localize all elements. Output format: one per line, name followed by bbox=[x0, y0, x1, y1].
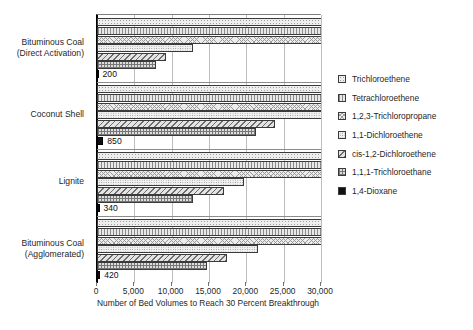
category-label-line: Bituminous Coal bbox=[0, 238, 84, 249]
bar-chart: Bituminous Coal(Direct Activation)Coconu… bbox=[0, 0, 473, 330]
legend-label: 1,4-Dioxane bbox=[352, 186, 397, 196]
bar bbox=[97, 70, 99, 78]
bar bbox=[97, 271, 100, 279]
bar bbox=[97, 27, 321, 35]
legend-label: 1,2,3-Trichloropropane bbox=[352, 111, 436, 121]
legend-item[interactable]: 1,1-Dichloroethene bbox=[338, 126, 473, 145]
legend-item[interactable]: Tetrachloroethene bbox=[338, 89, 473, 108]
legend-swatch-icon bbox=[338, 150, 346, 158]
bar-data-label: 340 bbox=[104, 204, 118, 213]
category-label: Bituminous Coal(Direct Activation) bbox=[0, 37, 84, 58]
bar bbox=[97, 137, 103, 145]
x-tick-label: 25,000 bbox=[270, 286, 296, 296]
bar bbox=[97, 161, 321, 169]
bar bbox=[97, 152, 321, 160]
category-axis: Bituminous Coal(Direct Activation)Coconu… bbox=[0, 14, 88, 282]
legend-swatch-icon bbox=[338, 94, 346, 102]
bar bbox=[97, 219, 321, 227]
x-axis-title: Number of Bed Volumes to Reach 30 Percen… bbox=[96, 298, 320, 308]
x-tick-label: 10,000 bbox=[158, 286, 184, 296]
legend-label: Trichloroethene bbox=[352, 74, 410, 84]
bar bbox=[97, 103, 321, 111]
bar bbox=[97, 120, 275, 128]
legend-item[interactable]: cis-1,2-Dichloroethene bbox=[338, 144, 473, 163]
bar bbox=[97, 178, 244, 186]
legend-swatch-icon bbox=[338, 112, 346, 120]
bar-data-label: 200 bbox=[103, 70, 117, 79]
legend-swatch-icon bbox=[338, 75, 346, 83]
bar bbox=[97, 36, 321, 44]
bar bbox=[97, 204, 100, 212]
legend-item[interactable]: 1,4-Dioxane bbox=[338, 182, 473, 201]
legend-label: 1,1-Dichloroethene bbox=[352, 130, 423, 140]
legend-swatch-icon bbox=[338, 168, 346, 176]
bar-data-label: 850 bbox=[107, 137, 121, 146]
category-separator bbox=[97, 216, 321, 217]
bar bbox=[97, 187, 224, 195]
bar bbox=[97, 128, 256, 136]
x-tick-label: 0 bbox=[94, 286, 99, 296]
legend-label: Tetrachloroethene bbox=[352, 93, 419, 103]
category-separator bbox=[97, 82, 321, 83]
category-label: Bituminous Coal(Agglomerated) bbox=[0, 238, 84, 259]
legend-item[interactable]: Trichloroethene bbox=[338, 70, 473, 89]
chart-legend: TrichloroetheneTetrachloroethene1,2,3-Tr… bbox=[338, 70, 473, 200]
bar bbox=[97, 262, 207, 270]
bar bbox=[97, 94, 321, 102]
category-label-line: Bituminous Coal bbox=[0, 37, 84, 48]
bar bbox=[97, 61, 156, 69]
legend-item[interactable]: 1,1,1-Trichloroethane bbox=[338, 163, 473, 182]
legend-label: 1,1,1-Trichloroethane bbox=[352, 167, 431, 177]
bar-data-label: 420 bbox=[104, 271, 118, 280]
bar bbox=[97, 254, 227, 262]
category-label-line: (Agglomerated) bbox=[0, 249, 84, 260]
x-axis-ticks: 05,00010,00015,00020,00025,00030,000 bbox=[96, 282, 320, 294]
bar bbox=[97, 237, 321, 245]
bar bbox=[97, 18, 321, 26]
bar bbox=[97, 170, 321, 178]
bar bbox=[97, 195, 193, 203]
x-tick-label: 5,000 bbox=[123, 286, 144, 296]
x-tick-label: 15,000 bbox=[195, 286, 221, 296]
category-label-line: Lignite bbox=[0, 176, 84, 187]
bar bbox=[97, 245, 258, 253]
gridline bbox=[321, 15, 322, 283]
legend-swatch-icon bbox=[338, 187, 346, 195]
bar bbox=[97, 111, 321, 119]
bar bbox=[97, 228, 321, 236]
legend-swatch-icon bbox=[338, 131, 346, 139]
legend-item[interactable]: 1,2,3-Trichloropropane bbox=[338, 107, 473, 126]
bar bbox=[97, 53, 166, 61]
category-label-line: Coconut Shell bbox=[0, 109, 84, 120]
bar bbox=[97, 44, 193, 52]
x-tick-label: 20,000 bbox=[233, 286, 259, 296]
category-label: Coconut Shell bbox=[0, 109, 84, 120]
legend-label: cis-1,2-Dichloroethene bbox=[352, 149, 436, 159]
plot-area: 200850340420 bbox=[96, 14, 320, 282]
x-tick-label: 30,000 bbox=[307, 286, 333, 296]
category-label-line: (Direct Activation) bbox=[0, 48, 84, 59]
category-separator bbox=[97, 149, 321, 150]
category-label: Lignite bbox=[0, 176, 84, 187]
bar bbox=[97, 85, 321, 93]
